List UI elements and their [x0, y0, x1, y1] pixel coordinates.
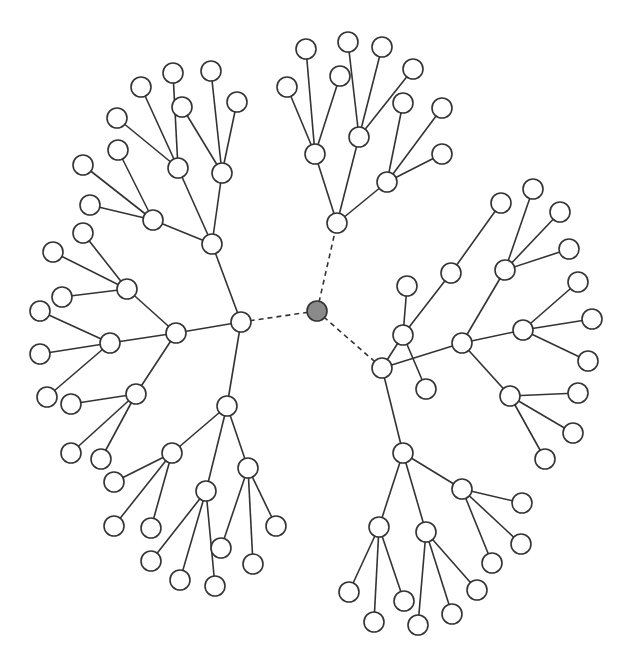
tree-edge	[426, 532, 477, 590]
tree-node	[212, 163, 232, 183]
tree-node	[91, 449, 111, 469]
tree-edge	[379, 527, 404, 601]
tree-node	[416, 379, 436, 399]
tree-edge	[382, 368, 403, 453]
tree-node	[535, 449, 555, 469]
node-layer	[30, 32, 602, 635]
tree-node	[217, 396, 237, 416]
tree-node	[442, 604, 462, 624]
tree-edge	[374, 527, 379, 622]
tree-node	[227, 92, 247, 112]
tree-node	[512, 493, 532, 513]
tree-node	[513, 320, 533, 340]
tree-edge	[462, 270, 505, 343]
tree-node	[330, 66, 350, 86]
tree-node	[143, 210, 163, 230]
tree-node	[397, 276, 417, 296]
tree-edge	[379, 453, 403, 527]
tree-node	[104, 472, 124, 492]
tree-node	[452, 479, 472, 499]
tree-node	[349, 127, 369, 147]
tree-node	[172, 97, 192, 117]
tree-edge	[462, 489, 521, 544]
tree-node	[202, 234, 222, 254]
tree-node	[500, 386, 520, 406]
tree-node	[296, 39, 316, 59]
tree-edge	[118, 150, 153, 220]
tree-node	[170, 570, 190, 590]
tree-node	[563, 423, 583, 443]
tree-edge	[315, 154, 337, 223]
tree-node	[196, 481, 216, 501]
tree-node	[372, 37, 392, 57]
tree-node	[393, 443, 413, 463]
tree-node	[80, 195, 100, 215]
tree-edge	[101, 394, 136, 459]
tree-node	[168, 158, 188, 178]
tree-node	[100, 333, 120, 353]
tree-edge	[418, 532, 426, 625]
tree-edge	[337, 137, 359, 223]
tree-node	[205, 576, 225, 596]
tree-edge	[315, 76, 340, 154]
tree-node	[327, 213, 347, 233]
tree-node	[523, 179, 543, 199]
tree-node	[338, 32, 358, 52]
tree-node	[163, 63, 183, 83]
tree-edge	[206, 491, 215, 586]
tree-node	[61, 443, 81, 463]
tree-node	[211, 538, 231, 558]
tree-node	[126, 384, 146, 404]
tree-node	[369, 517, 389, 537]
tree-edge	[180, 491, 206, 580]
tree-node	[117, 279, 137, 299]
tree-edge	[462, 489, 492, 563]
tree-node	[394, 591, 414, 611]
tree-edge	[114, 453, 172, 526]
tree-node	[568, 272, 588, 292]
tree-node	[482, 553, 502, 573]
tree-edge	[141, 87, 178, 168]
tree-node	[52, 287, 72, 307]
tree-edge	[248, 468, 253, 564]
tree-node	[162, 443, 182, 463]
tree-node	[107, 108, 127, 128]
radial-tree-diagram	[0, 0, 626, 658]
tree-edge	[426, 532, 452, 614]
tree-node	[108, 140, 128, 160]
tree-edge	[53, 252, 127, 289]
tree-node	[495, 260, 515, 280]
tree-node	[432, 144, 452, 164]
tree-edge	[136, 333, 176, 394]
tree-node	[166, 323, 186, 343]
tree-node	[467, 580, 487, 600]
tree-node	[550, 202, 570, 222]
tree-node	[266, 516, 286, 536]
tree-edge	[206, 406, 227, 491]
tree-node	[231, 312, 251, 332]
tree-node	[393, 325, 413, 345]
tree-edge	[151, 453, 172, 528]
tree-edge	[451, 203, 501, 273]
tree-node	[141, 551, 161, 571]
tree-node	[201, 61, 221, 81]
dashed-edge	[317, 311, 382, 368]
tree-node	[73, 223, 93, 243]
tree-node	[104, 516, 124, 536]
tree-node	[403, 59, 423, 79]
tree-node	[568, 383, 588, 403]
tree-node	[131, 77, 151, 97]
tree-edge	[306, 49, 315, 154]
tree-node	[30, 344, 50, 364]
tree-node	[305, 144, 325, 164]
tree-edge	[221, 468, 248, 548]
tree-node	[432, 98, 452, 118]
tree-node	[559, 239, 579, 259]
tree-node	[452, 333, 472, 353]
tree-node	[277, 77, 297, 97]
tree-edge	[382, 343, 462, 368]
tree-node	[408, 615, 428, 635]
tree-node	[491, 193, 511, 213]
dashed-edge	[241, 311, 317, 322]
tree-node	[364, 612, 384, 632]
